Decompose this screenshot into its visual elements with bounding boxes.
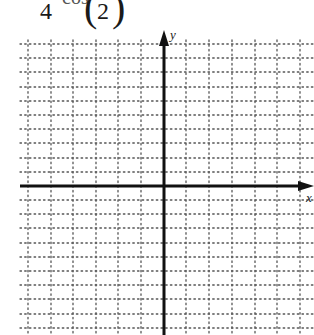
coordinate-grid: [0, 0, 314, 335]
x-axis-label: x: [306, 190, 312, 206]
y-axis-arrow-icon: [159, 30, 169, 46]
y-axis-label: y: [170, 27, 176, 43]
